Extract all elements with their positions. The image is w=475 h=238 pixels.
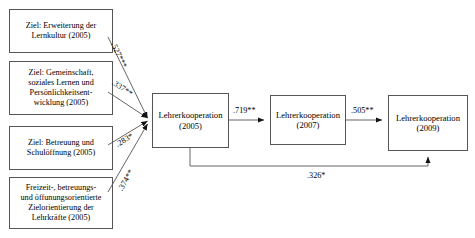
node-label: Ziel: Betreuung und Schulöffnung (2005) — [24, 138, 98, 158]
node-label: Lehrerkooperation (2009) — [393, 113, 463, 134]
node-label: Freizeit-, betreuungs- und öffunungsorie… — [17, 183, 104, 223]
edge-label-e5: .719** — [233, 106, 256, 115]
node-lehrerkooperation-2009[interactable]: Lehrerkooperation (2009) — [388, 95, 468, 151]
node-freizeit-zielorientierung[interactable]: Freizeit-, betreuungs- und öffunungsorie… — [9, 177, 113, 229]
node-label: Lehrerkooperation (2007) — [273, 110, 343, 131]
node-ziel-lernkultur[interactable]: Ziel: Erweiterung der Lernkultur (2005) — [9, 9, 113, 53]
node-label: Ziel: Erweiterung der Lernkultur (2005) — [23, 21, 99, 41]
edge-label-e7: .326* — [307, 171, 325, 180]
node-ziel-betreuung[interactable]: Ziel: Betreuung und Schulöffnung (2005) — [9, 126, 113, 170]
path-diagram: Ziel: Erweiterung der Lernkultur (2005) … — [0, 0, 475, 238]
node-ziel-gemeinschaft[interactable]: Ziel: Gemeinschaft, soziales Lernen und … — [9, 61, 113, 115]
node-label: Ziel: Gemeinschaft, soziales Lernen und … — [25, 68, 96, 108]
node-label: Lehrerkooperation (2005) — [156, 110, 226, 131]
node-lehrerkooperation-2007[interactable]: Lehrerkooperation (2007) — [270, 95, 346, 145]
edge-label-e6: .505** — [351, 106, 374, 115]
node-lehrerkooperation-2005[interactable]: Lehrerkooperation (2005) — [152, 93, 229, 148]
